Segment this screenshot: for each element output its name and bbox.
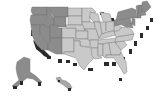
state-oh[interactable] bbox=[106, 21, 115, 32]
state-co[interactable] bbox=[62, 28, 76, 38]
region-alaska bbox=[12, 57, 42, 89]
us-map bbox=[0, 0, 163, 101]
state-ak[interactable] bbox=[12, 57, 42, 88]
state-nm[interactable] bbox=[62, 38, 74, 54]
state-ia[interactable] bbox=[82, 22, 95, 29]
region-northeast bbox=[114, 1, 151, 28]
state-nj[interactable] bbox=[132, 18, 135, 26]
state-az[interactable] bbox=[48, 38, 62, 54]
state-vt[interactable] bbox=[136, 5, 139, 13]
region-central bbox=[62, 8, 118, 70]
state-mt[interactable] bbox=[50, 7, 68, 17]
state-ks[interactable] bbox=[76, 31, 88, 39]
state-fl[interactable] bbox=[106, 52, 127, 74]
region-hawaii bbox=[56, 77, 72, 91]
state-or[interactable] bbox=[30, 15, 47, 25]
state-ms[interactable] bbox=[98, 44, 103, 56]
state-ar[interactable] bbox=[90, 40, 99, 48]
state-me[interactable] bbox=[142, 1, 151, 12]
state-wi[interactable] bbox=[90, 12, 100, 22]
state-nd[interactable] bbox=[68, 8, 82, 16]
state-sd[interactable] bbox=[68, 16, 82, 25]
state-ny[interactable] bbox=[116, 8, 137, 20]
state-wa[interactable] bbox=[31, 7, 47, 15]
state-nh[interactable] bbox=[139, 5, 142, 13]
